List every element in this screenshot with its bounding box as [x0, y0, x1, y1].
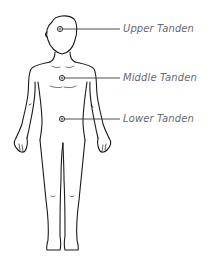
- left-hand: [14, 138, 27, 152]
- upper-tanden-marker-icon: [57, 26, 62, 31]
- middle-tanden-label: Middle Tanden: [123, 72, 197, 84]
- upper-tanden-label: Upper Tanden: [123, 23, 194, 35]
- left-leg-outer: [40, 140, 63, 250]
- middle-tanden-marker-icon: [59, 75, 64, 80]
- right-hand: [98, 138, 111, 152]
- right-leg-outer: [63, 140, 85, 250]
- lower-tanden-marker-icon: [59, 116, 64, 121]
- left-shoulder-arm: [16, 62, 50, 138]
- right-shoulder-arm: [75, 62, 109, 138]
- lower-tanden-label: Lower Tanden: [123, 113, 194, 125]
- head-outline: [47, 16, 77, 54]
- human-figure: [0, 0, 210, 267]
